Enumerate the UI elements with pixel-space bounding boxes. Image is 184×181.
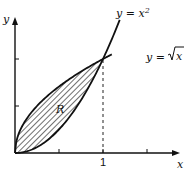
y-axis-label: y (2, 13, 10, 26)
superscript: 2 (144, 6, 150, 15)
x-axis-label: x (177, 158, 184, 171)
chart: x y 1 y = x2 y = x R (0, 0, 184, 181)
legend-label-sqrt-x: y = (145, 51, 165, 64)
label-text: y = x (115, 7, 145, 20)
x-axis-arrow-icon (172, 150, 180, 156)
region-label: R (55, 103, 64, 116)
y-axis-arrow-icon (12, 17, 18, 25)
radicand-label: x (176, 50, 183, 63)
x-tick-label-1: 1 (100, 156, 106, 168)
legend-label-x-squared: y = x2 (115, 6, 150, 20)
